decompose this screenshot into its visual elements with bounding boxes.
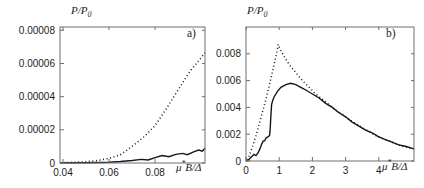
figure-two-panel-plot: 0.040.060.0800.000020.000040.000060.0000…	[0, 0, 424, 188]
panel-label-a: a)	[187, 28, 196, 40]
svg-text:0.008: 0.008	[216, 48, 241, 59]
svg-text:2: 2	[310, 165, 316, 176]
panel-a: 0.040.060.0800.000020.000040.000060.0000…	[0, 0, 212, 188]
svg-text:0.002: 0.002	[216, 129, 241, 140]
svg-text:0.00004: 0.00004	[19, 91, 56, 102]
svg-text:0.004: 0.004	[216, 102, 241, 113]
svg-text:0.04: 0.04	[53, 167, 73, 178]
svg-text:3: 3	[343, 165, 349, 176]
panel-label-b: b)	[386, 28, 396, 40]
plot-canvas-a: 0.040.060.0800.000020.000040.000060.0000…	[0, 0, 212, 188]
svg-text:0.06: 0.06	[99, 167, 119, 178]
x-axis-label-a: μ*B/Δ	[176, 162, 202, 173]
svg-text:0.00008: 0.00008	[19, 25, 56, 36]
panel-b: 0123400.0020.0040.0060.008 P/P0 μ*B/Δ b)	[212, 0, 424, 188]
y-axis-label-b: P/P0	[247, 5, 268, 16]
svg-text:0: 0	[235, 156, 241, 167]
svg-text:0.00006: 0.00006	[19, 58, 56, 69]
svg-text:0.00002: 0.00002	[19, 124, 56, 135]
svg-text:1: 1	[276, 165, 282, 176]
x-axis-label-b: μ*B/Δ	[382, 161, 408, 172]
svg-text:0.006: 0.006	[216, 75, 241, 86]
svg-text:0.08: 0.08	[145, 167, 165, 178]
svg-text:0: 0	[49, 158, 55, 169]
svg-text:0: 0	[243, 165, 249, 176]
y-axis-label-a: P/P0	[71, 5, 92, 16]
